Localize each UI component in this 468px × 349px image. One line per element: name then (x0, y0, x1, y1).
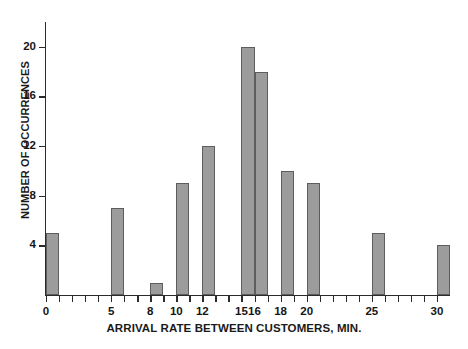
bar (46, 233, 59, 295)
x-tick-minor (189, 295, 190, 302)
x-tick-label: 18 (274, 305, 287, 317)
x-tick-minor (85, 295, 86, 302)
bar (111, 208, 124, 295)
x-tick-label: 12 (196, 305, 209, 317)
y-tick-label: 4 (30, 238, 36, 250)
y-tick: 8 (39, 196, 46, 197)
bar (150, 283, 163, 295)
x-tick-minor (124, 295, 125, 302)
y-tick: 20 (39, 47, 46, 48)
x-tick-label: 5 (108, 305, 114, 317)
x-tick-minor (137, 295, 138, 302)
x-tick-major (202, 295, 203, 302)
x-tick-label: 15 (235, 305, 248, 317)
x-tick-minor (346, 295, 347, 302)
x-tick-minor (228, 295, 229, 302)
bar (176, 183, 189, 295)
y-tick-label: 16 (23, 89, 36, 101)
x-tick-minor (98, 295, 99, 302)
y-tick-label: 8 (30, 189, 36, 201)
plot-area: 48121620 0581012151618202530 (46, 22, 450, 295)
x-tick-minor (411, 295, 412, 302)
x-tick-major (437, 295, 438, 302)
x-tick-major (255, 295, 256, 302)
x-tick-minor (424, 295, 425, 302)
x-tick-label: 20 (300, 305, 313, 317)
y-tick-label: 20 (23, 40, 36, 52)
x-tick-major (176, 295, 177, 302)
x-tick-minor (333, 295, 334, 302)
x-tick-minor (59, 295, 60, 302)
x-tick-label: 25 (365, 305, 378, 317)
x-tick-major (111, 295, 112, 302)
x-tick-minor (359, 295, 360, 302)
bar (307, 183, 320, 295)
x-tick-label: 16 (248, 305, 261, 317)
x-tick-major (241, 295, 242, 302)
y-tick: 4 (39, 245, 46, 246)
bar (202, 146, 215, 295)
x-tick-minor (72, 295, 73, 302)
bar (437, 245, 450, 295)
y-tick: 16 (39, 96, 46, 97)
bar (281, 171, 294, 295)
x-tick-label: 8 (147, 305, 153, 317)
x-tick-minor (398, 295, 399, 302)
x-tick-major (307, 295, 308, 302)
x-tick-minor (215, 295, 216, 302)
x-tick-minor (163, 295, 164, 302)
bar (241, 47, 254, 295)
x-tick-label: 10 (170, 305, 183, 317)
x-axis-line (45, 295, 450, 296)
bar (255, 72, 268, 295)
x-tick-major (150, 295, 151, 302)
bar-chart: NUMBER OF OCCURRENCES 48121620 058101215… (0, 0, 468, 349)
x-tick-major (46, 295, 47, 302)
x-tick-major (281, 295, 282, 302)
x-tick-minor (294, 295, 295, 302)
x-tick-label: 30 (431, 305, 444, 317)
bar (372, 233, 385, 295)
y-tick: 12 (39, 146, 46, 147)
x-tick-label: 0 (43, 305, 49, 317)
x-tick-minor (268, 295, 269, 302)
x-tick-minor (320, 295, 321, 302)
y-tick-label: 12 (23, 139, 36, 151)
x-tick-major (372, 295, 373, 302)
x-axis-title: ARRIVAL RATE BETWEEN CUSTOMERS, MIN. (0, 322, 468, 334)
x-tick-minor (385, 295, 386, 302)
